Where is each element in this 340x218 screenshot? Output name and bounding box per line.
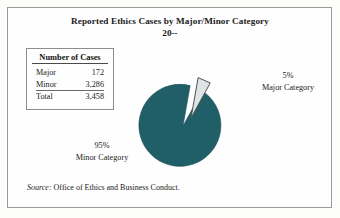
- title-block: Reported Ethics Cases by Major/Minor Cat…: [0, 16, 340, 39]
- table-row-total: Total 3,458: [36, 91, 104, 103]
- table-cell-label: Total: [36, 91, 53, 103]
- table-cell-value: 172: [92, 67, 104, 79]
- callout-minor-category: 95% Minor Category: [48, 140, 156, 163]
- callout-minor-percent: 95%: [48, 140, 156, 152]
- callout-major-name: Major Category: [244, 82, 332, 94]
- callout-major-percent: 5%: [244, 70, 332, 82]
- table-cell-value: 3,458: [86, 91, 104, 103]
- page-title: Reported Ethics Cases by Major/Minor Cat…: [0, 16, 340, 27]
- table-cell-label: Minor: [36, 79, 56, 91]
- source-note: Source: Office of Ethics and Business Co…: [27, 183, 180, 192]
- table-row: Major 172: [36, 67, 104, 79]
- number-of-cases-table: Number of Cases Major 172 Minor 3,286 To…: [26, 48, 114, 110]
- callout-major-category: 5% Major Category: [244, 70, 332, 93]
- table-row: Minor 3,286: [36, 79, 104, 92]
- chart-subtitle: 20--: [0, 28, 340, 39]
- table-header: Number of Cases: [32, 53, 108, 64]
- callout-minor-name: Minor Category: [48, 152, 156, 164]
- table-cell-label: Major: [36, 67, 56, 79]
- table-cell-value: 3,286: [86, 79, 104, 91]
- source-text: Office of Ethics and Business Conduct.: [54, 183, 180, 192]
- chart-figure: Reported Ethics Cases by Major/Minor Cat…: [0, 0, 340, 218]
- source-label: Source:: [27, 183, 52, 192]
